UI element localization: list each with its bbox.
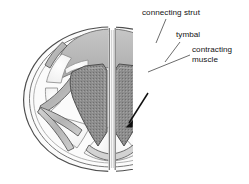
label-contracting-muscle: contracting muscle	[192, 45, 248, 64]
label-tymbal: tymbal	[176, 30, 200, 40]
label-connecting-strut: connecting strut	[142, 8, 200, 18]
tymbal-half-right	[112, 27, 198, 172]
membrane-cell-right-5	[134, 60, 157, 74]
diagram-canvas	[0, 0, 249, 184]
leader-connecting-strut	[156, 19, 166, 43]
leader-contracting-muscle	[148, 55, 190, 72]
leader-lines	[148, 19, 190, 72]
membrane-cell-right-3	[132, 117, 168, 148]
connecting-strut-right-4	[155, 42, 177, 68]
connecting-strut-right-3	[148, 108, 185, 151]
tymbal-half-left	[24, 27, 110, 172]
contracting-muscle-right	[115, 64, 152, 146]
connecting-strut-right-1	[142, 72, 183, 113]
tymbal-diagram: connecting strut tymbal contracting musc…	[0, 0, 249, 184]
leader-tymbal	[165, 42, 180, 62]
membrane-cell-right-2	[162, 88, 177, 112]
membrane-cell-right-1	[151, 54, 176, 83]
connecting-strut-right-2	[140, 107, 184, 136]
